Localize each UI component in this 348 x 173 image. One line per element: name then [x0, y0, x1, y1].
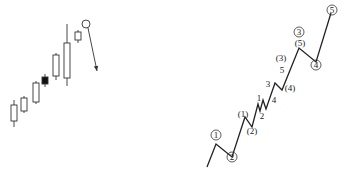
wave-label-text: 5	[330, 5, 335, 15]
wave-label: 4	[272, 95, 277, 105]
candle-body	[75, 32, 81, 40]
wave-label: (2)	[247, 126, 258, 136]
wave-label-text: 1	[214, 130, 219, 140]
wave-label-text: (5)	[295, 38, 306, 48]
down-arrow-icon	[88, 28, 97, 71]
wave-label-text: 3	[297, 27, 302, 37]
diagram-canvas: 12(1)(2)12345(3)(4)3(5)45	[0, 0, 348, 173]
wave-label: (4)	[285, 83, 296, 93]
wave-label-text: 3	[266, 79, 271, 89]
wave-label: 3	[294, 27, 304, 37]
wave-label: 5	[327, 5, 337, 15]
wave-label-text: 2	[260, 111, 265, 121]
candle-body	[21, 98, 27, 111]
wave-label-text: 1	[257, 93, 262, 103]
wave-label: 1	[211, 130, 221, 140]
elliott-wave-diagram: 12(1)(2)12345(3)(4)3(5)45	[207, 5, 337, 167]
candlestick	[64, 24, 70, 86]
wave-label-text: 4	[314, 60, 319, 70]
arrowhead-icon	[94, 66, 98, 71]
wave-label: (1)	[238, 109, 249, 119]
candlestick	[75, 30, 81, 43]
wave-label: 5	[280, 65, 285, 75]
candlestick	[33, 81, 39, 104]
wave-label-text: 5	[280, 65, 285, 75]
candlestick	[11, 100, 17, 127]
candle-body	[53, 55, 59, 76]
wave-label-text: 2	[230, 152, 235, 162]
candle-body	[11, 105, 17, 121]
peak-circle-marker	[82, 20, 90, 28]
wave-label-text: (4)	[285, 83, 296, 93]
wave-label: (5)	[295, 38, 306, 48]
wave-label: 3	[266, 79, 271, 89]
candlestick-chart	[11, 20, 98, 127]
wave-label-text: (1)	[238, 109, 249, 119]
candle-body	[64, 43, 70, 78]
wave-label: 2	[260, 111, 265, 121]
wave-path	[207, 13, 331, 167]
wave-label: (3)	[276, 53, 287, 63]
wave-label-text: (2)	[247, 126, 258, 136]
candle-body	[42, 77, 48, 84]
wave-label: 4	[311, 60, 321, 70]
wave-label: 1	[257, 93, 262, 103]
candlestick	[53, 53, 59, 80]
candlestick	[21, 96, 27, 113]
candle-body	[33, 83, 39, 102]
wave-label: 2	[227, 152, 237, 162]
wave-label-text: (3)	[276, 53, 287, 63]
candlestick	[42, 74, 48, 87]
wave-label-text: 4	[272, 95, 277, 105]
